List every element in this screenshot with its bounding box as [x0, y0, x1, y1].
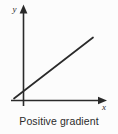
positive-gradient-line: [14, 38, 93, 99]
y-axis-label: y: [12, 4, 17, 14]
positive-gradient-figure: y x Positive gradient: [0, 0, 118, 134]
line-graph: y x: [0, 0, 118, 112]
x-axis-label: x: [101, 102, 106, 112]
figure-caption: Positive gradient: [0, 115, 118, 127]
arrow-up-icon: [20, 5, 28, 14]
